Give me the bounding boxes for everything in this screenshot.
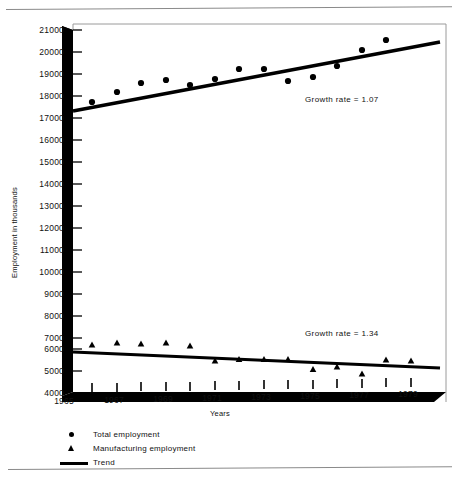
- line-marker-icon: [60, 456, 86, 470]
- ytick-label: 5000: [20, 366, 64, 376]
- ytick-label: 9000: [20, 289, 64, 299]
- ytick-label: 19000: [20, 69, 64, 79]
- legend-label: Trend: [93, 458, 115, 467]
- circle-marker-icon: [60, 428, 86, 442]
- ytick-label: 6000: [20, 344, 64, 354]
- chart-legend: Total employment Manufacturing employmen…: [60, 428, 310, 470]
- ytick-label: 12000: [20, 223, 64, 233]
- growth-rate-manufacturing-annotation: Growth rate = 1.34: [305, 329, 379, 338]
- legend-label: Total employment: [93, 430, 160, 439]
- trend-line-total: [73, 42, 440, 111]
- xtick-label: 1965: [44, 396, 84, 406]
- growth-rate-total-annotation: Growth rate = 1.07: [305, 95, 379, 104]
- x-axis-title: Years: [210, 409, 230, 418]
- ytick-label: 8000: [20, 311, 64, 321]
- ytick-label: 7000: [20, 333, 64, 343]
- y-axis-title: Employment in thousands: [10, 178, 19, 288]
- legend-item-total-employment: Total employment: [60, 428, 310, 442]
- triangle-marker-icon: [60, 442, 86, 456]
- ytick-label: 15000: [20, 157, 64, 167]
- figure-container: 21000 20000 19000 18000 17000 16000 1500…: [0, 0, 458, 479]
- series-manufacturing-employment: [65, 340, 415, 377]
- xtick-label: 1979: [388, 389, 428, 399]
- ytick-label: 11000: [20, 245, 64, 255]
- legend-item-trend: Trend: [60, 456, 310, 470]
- xtick-label: 1977: [339, 390, 379, 400]
- xtick-label: 1969: [143, 394, 183, 404]
- chart-plot: [0, 0, 458, 479]
- xtick-label: 1975: [290, 391, 330, 401]
- xtick-label: 1967: [94, 395, 134, 405]
- ytick-label: 21000: [20, 25, 64, 35]
- xtick-label: 1973: [241, 392, 281, 402]
- legend-label: Manufacturing employment: [93, 444, 196, 453]
- ytick-label: 18000: [20, 91, 64, 101]
- legend-item-manufacturing-employment: Manufacturing employment: [60, 442, 310, 456]
- ytick-label: 17000: [20, 113, 64, 123]
- ytick-label: 14000: [20, 179, 64, 189]
- xtick-label: 1971: [192, 393, 232, 403]
- ytick-label: 13000: [20, 201, 64, 211]
- ytick-label: 16000: [20, 135, 64, 145]
- ytick-label: 20000: [20, 47, 64, 57]
- ytick-label: 10000: [20, 267, 64, 277]
